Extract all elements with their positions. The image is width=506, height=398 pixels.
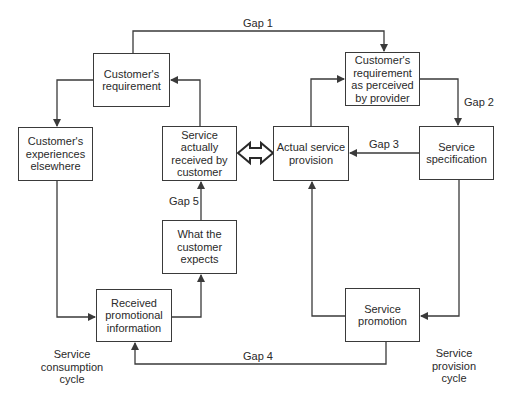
provision-cycle-label: Service provision cycle — [422, 347, 486, 385]
box-label: Received promotional information — [99, 297, 169, 335]
box-label: Service promotion — [348, 303, 417, 328]
box-actual-provision: Actual service provision — [273, 126, 349, 181]
box-customers-experiences: Customer's experiences elsewhere — [18, 127, 93, 181]
gap-4-label: Gap 4 — [243, 350, 273, 363]
box-received-promo: Received promotional information — [96, 289, 172, 342]
box-label: Customer's experiences elsewhere — [21, 135, 90, 173]
box-customer-expects: What the customer expects — [162, 220, 237, 274]
double-arrow-icon — [238, 143, 273, 163]
consumption-cycle-label: Service consumption cycle — [40, 348, 104, 386]
box-service-received: Service actually received by customer — [162, 126, 237, 181]
box-label: Actual service provision — [276, 141, 346, 166]
gap-2-label: Gap 2 — [464, 96, 494, 109]
connector-lines — [0, 0, 506, 398]
box-perceived-requirement: Customer's requirement as perceived by p… — [345, 52, 420, 106]
box-label: Customer's requirement — [96, 68, 167, 93]
box-service-promotion: Service promotion — [345, 288, 420, 342]
box-label: Service actually received by customer — [165, 129, 234, 179]
box-customers-requirement: Customer's requirement — [93, 53, 170, 107]
gap-3-label: Gap 3 — [369, 138, 399, 151]
box-label: What the customer expects — [165, 228, 234, 266]
box-label: Service specification — [422, 141, 491, 166]
gap-1-label: Gap 1 — [243, 17, 273, 30]
gap-5-label: Gap 5 — [169, 195, 199, 208]
box-label: Customer's requirement as perceived by p… — [348, 54, 417, 104]
box-service-spec: Service specification — [419, 126, 494, 180]
